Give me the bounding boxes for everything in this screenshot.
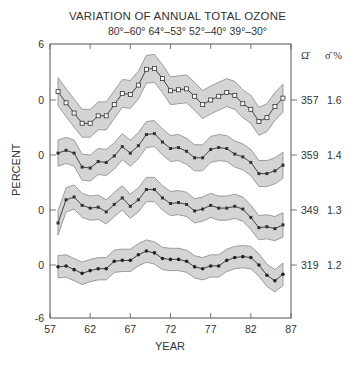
data-point: [137, 198, 140, 201]
data-point: [241, 255, 245, 259]
data-point: [217, 207, 220, 210]
data-point: [113, 154, 116, 157]
data-point: [177, 258, 181, 262]
data-point: [153, 188, 156, 191]
y-tick-label: 0: [38, 149, 44, 161]
data-point: [201, 267, 205, 271]
data-point: [89, 167, 92, 170]
data-point: [96, 267, 100, 271]
data-point: [145, 249, 149, 253]
data-point: [160, 77, 164, 81]
data-point: [249, 256, 253, 260]
data-point: [185, 87, 189, 91]
data-point: [105, 161, 108, 164]
data-point: [249, 161, 252, 164]
data-point: [209, 148, 212, 151]
data-point: [217, 264, 221, 268]
data-point: [136, 83, 140, 87]
data-point: [217, 94, 221, 98]
data-point: [65, 198, 68, 201]
data-point: [193, 209, 196, 212]
data-point: [281, 273, 285, 277]
data-point: [57, 152, 60, 155]
data-point: [161, 196, 164, 199]
data-point: [169, 202, 172, 205]
data-point: [281, 223, 284, 226]
data-point: [185, 203, 188, 206]
data-point: [225, 147, 228, 150]
data-point: [145, 188, 148, 191]
data-point: [161, 257, 165, 261]
data-point: [89, 207, 92, 210]
data-point: [169, 89, 173, 93]
data-point: [88, 121, 92, 125]
data-point: [153, 251, 157, 255]
data-point: [104, 267, 108, 271]
data-point: [233, 93, 237, 97]
data-point: [80, 272, 84, 276]
data-point: [193, 156, 196, 159]
data-point: [193, 265, 197, 269]
data-point: [273, 105, 277, 109]
data-point: [104, 114, 108, 118]
data-point: [265, 172, 268, 175]
sigma-band: [58, 177, 283, 240]
sigma-percent-value: 1.3: [327, 204, 342, 216]
data-point: [129, 259, 133, 263]
data-point: [112, 103, 116, 107]
data-point: [145, 133, 148, 136]
data-point: [80, 121, 84, 125]
data-point: [161, 140, 164, 143]
data-point: [273, 279, 277, 283]
data-point: [73, 152, 76, 155]
data-point: [65, 149, 68, 152]
data-point: [201, 103, 205, 107]
data-point: [177, 201, 180, 204]
data-point: [265, 116, 269, 120]
data-point: [233, 256, 237, 260]
data-point: [241, 208, 244, 211]
data-point: [257, 172, 260, 175]
y-tick-label: 6: [38, 38, 44, 50]
data-point: [96, 114, 100, 118]
right-column-values: 3571.63591.43491.33191.2Ω̄σ̄ %: [301, 50, 342, 271]
mean-ozone-value: 349: [301, 204, 319, 216]
data-point: [233, 153, 236, 156]
x-tick-label: 72: [165, 323, 177, 335]
data-point: [273, 227, 276, 230]
data-point: [265, 273, 269, 277]
data-point: [249, 216, 252, 219]
data-point: [201, 156, 204, 159]
data-point: [121, 196, 124, 199]
data-point: [72, 111, 76, 115]
sigma-header: σ̄ %: [325, 50, 342, 61]
data-point: [120, 91, 124, 95]
data-point: [121, 259, 125, 263]
data-point: [88, 269, 92, 273]
mean-ozone-header: Ω̄: [301, 50, 311, 61]
data-point: [56, 265, 60, 269]
data-point: [177, 88, 181, 92]
data-point: [257, 226, 260, 229]
ozone-chart: 5762677277828760000-6 3571.63591.43491.3…: [0, 0, 355, 370]
x-tick-label: 82: [245, 323, 257, 335]
data-point: [281, 164, 284, 167]
data-point: [209, 98, 213, 102]
data-point: [129, 152, 132, 155]
data-point: [137, 144, 140, 147]
x-tick-label: 87: [285, 323, 297, 335]
data-point: [209, 264, 213, 268]
data-point: [97, 206, 100, 209]
x-axis-label: YEAR: [155, 340, 185, 352]
data-point: [281, 96, 285, 100]
y-tick-label: 0: [38, 94, 44, 106]
mean-ozone-value: 319: [301, 259, 319, 271]
data-point: [129, 205, 132, 208]
x-tick-label: 62: [84, 323, 96, 335]
data-point: [81, 204, 84, 207]
sigma-band: [58, 240, 283, 292]
data-point: [64, 101, 68, 105]
data-point: [273, 169, 276, 172]
data-point: [249, 107, 253, 111]
data-point: [169, 147, 172, 150]
